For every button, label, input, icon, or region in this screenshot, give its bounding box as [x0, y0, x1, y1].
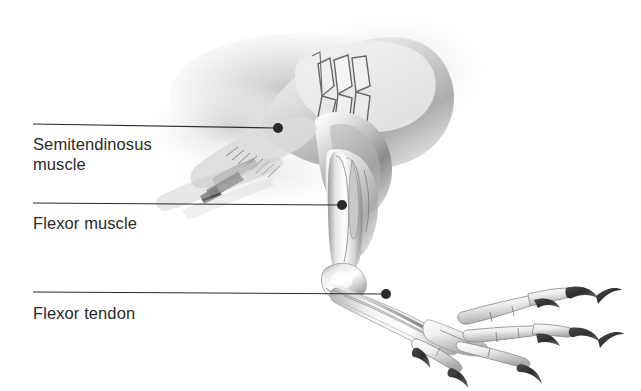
- leader-line-flexor-muscle: [33, 200, 347, 210]
- leader-line-flexor-tendon: [33, 289, 391, 299]
- leader-line-semitendinosus-muscle: [33, 123, 283, 133]
- anatomy-figure-page: Semitendinosus muscle Flexor muscle Flex…: [0, 0, 641, 391]
- annotation-label-flexor-tendon: Flexor tendon: [33, 303, 135, 323]
- leader-lines-layer: [0, 0, 641, 391]
- annotation-label-flexor-muscle: Flexor muscle: [33, 213, 137, 233]
- annotation-label-semitendinosus-muscle: Semitendinosus muscle: [33, 134, 152, 174]
